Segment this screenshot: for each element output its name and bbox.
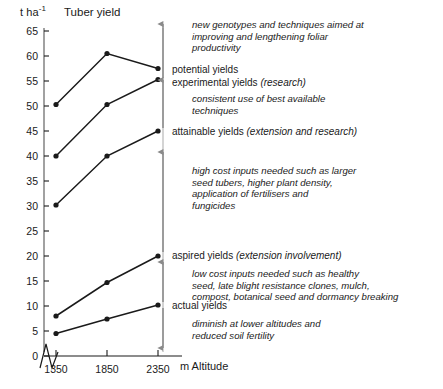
y-tick-label: 65 bbox=[12, 26, 38, 36]
annotation-gap-attainable-line-3: application of fertilisers and bbox=[192, 188, 308, 199]
series-experimental-yields bbox=[53, 77, 160, 159]
label-aspired-yields: aspired yields (extension involvement) bbox=[172, 250, 342, 261]
annotation-gap-experimental-line-1: consistent use of best available bbox=[192, 93, 325, 104]
label-attainable-yields-text: attainable yields bbox=[172, 126, 247, 137]
y-tick-label: 60 bbox=[12, 51, 38, 61]
label-aspired-yields-paren: (extension involvement) bbox=[236, 250, 342, 261]
label-aspired-yields-text: aspired yields bbox=[172, 250, 236, 261]
annotation-gap-attainable-line-2: seed tubers, higher plant density, bbox=[192, 177, 333, 188]
y-tick-label: 55 bbox=[12, 76, 38, 86]
chart-title: Tuber yield bbox=[64, 6, 120, 18]
y-tick-label: 35 bbox=[12, 176, 38, 186]
label-attainable-yields-paren: (extension and research) bbox=[247, 126, 358, 137]
y-tick-label: 45 bbox=[12, 126, 38, 136]
y-tick-label: 25 bbox=[12, 226, 38, 236]
y-tick-label: 10 bbox=[12, 301, 38, 311]
y-axis-unit-text: t ha bbox=[20, 6, 39, 18]
annotation-gap-experimental-line-2: techniques bbox=[192, 105, 238, 116]
series-attainable-yields bbox=[53, 128, 160, 207]
label-actual-yields: actual yields bbox=[172, 300, 227, 311]
label-experimental-yields: experimental yields (research) bbox=[172, 77, 306, 88]
x-tick-label: 2350 bbox=[135, 364, 181, 374]
annotation-gap-aspired-line-2: seed, late blight resistance clones, mul… bbox=[192, 280, 370, 291]
label-experimental-yields-text: experimental yields bbox=[172, 77, 260, 88]
series-potential-yields bbox=[53, 51, 160, 107]
label-potential-yields: potential yields bbox=[172, 64, 238, 75]
x-axis-unit-label: m Altitude bbox=[180, 360, 228, 372]
annotation-gap-top-line-1: new genotypes and techniques aimed at bbox=[192, 19, 364, 30]
annotation-gap-actual-line-2: reduced soil fertility bbox=[192, 330, 274, 341]
plot-area: t ha-1 Tuber yield m Altitude 65 60 55 5… bbox=[0, 0, 443, 389]
annotation-gap-attainable-line-1: high cost inputs needed such as larger bbox=[192, 165, 356, 176]
x-tick-label: 1850 bbox=[84, 364, 130, 374]
annotation-gap-top-line-2: improving and lengthening foliar bbox=[192, 31, 328, 42]
label-experimental-yields-paren: (research) bbox=[260, 77, 306, 88]
y-tick-label: 20 bbox=[12, 251, 38, 261]
y-tick-label: 15 bbox=[12, 276, 38, 286]
annotation-gap-top-line-3: productivity bbox=[192, 42, 241, 53]
annotation-gap-aspired-line-1: low cost inputs needed such as healthy bbox=[192, 268, 359, 279]
annotation-gap-actual-line-1: diminish at lower altitudes and bbox=[192, 318, 321, 329]
x-tick-label: 1350 bbox=[33, 364, 79, 374]
y-tick-label: 0 bbox=[12, 351, 38, 361]
y-tick-label: 40 bbox=[12, 151, 38, 161]
y-tick-label: 5 bbox=[12, 326, 38, 336]
chart-figure: t ha-1 Tuber yield m Altitude 65 60 55 5… bbox=[0, 0, 443, 389]
x-tick-marks bbox=[56, 350, 158, 356]
annotation-gap-attainable-line-4: fungicides bbox=[192, 200, 235, 211]
y-tick-label: 30 bbox=[12, 201, 38, 211]
y-tick-label: 50 bbox=[12, 101, 38, 111]
y-axis-unit-exponent: -1 bbox=[39, 4, 46, 13]
label-attainable-yields: attainable yields (extension and researc… bbox=[172, 126, 357, 137]
y-axis-unit-label: t ha-1 bbox=[20, 4, 46, 18]
